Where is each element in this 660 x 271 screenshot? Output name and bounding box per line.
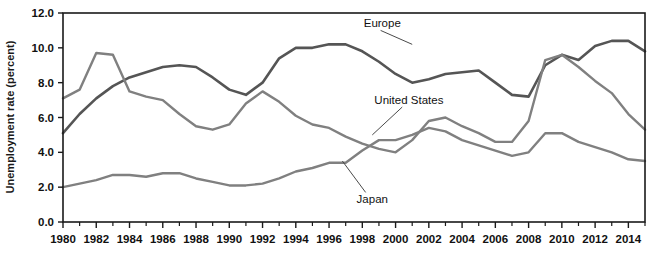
y-tick: 0.0 (38, 216, 63, 228)
x-tick: 2000 (383, 222, 409, 245)
x-tick: 1988 (183, 222, 209, 245)
series-label-japan: Japan (357, 193, 388, 205)
y-tick-label: 12.0 (32, 7, 54, 19)
x-tick: 2006 (483, 222, 509, 245)
x-tick: 2014 (616, 222, 642, 245)
plot-background (63, 13, 645, 222)
series-label-europe: Europe (364, 17, 401, 29)
y-axis-title-text: Unemployment rate (percent) (4, 40, 16, 193)
x-tick-label: 2014 (616, 233, 642, 245)
x-tick-label: 1994 (283, 233, 309, 245)
y-tick-label: 8.0 (38, 77, 54, 89)
y-tick-label: 2.0 (38, 181, 54, 193)
x-tick-label: 2008 (516, 233, 542, 245)
y-tick: 10.0 (32, 42, 63, 54)
x-tick: 2002 (416, 222, 442, 245)
x-tick: 1990 (216, 222, 242, 245)
x-tick-label: 1982 (83, 233, 109, 245)
x-tick-label: 2002 (416, 233, 442, 245)
x-tick: 2008 (516, 222, 542, 245)
y-axis-title: Unemployment rate (percent) (4, 40, 16, 193)
x-tick-label: 1992 (250, 233, 276, 245)
y-tick-label: 4.0 (38, 146, 54, 158)
y-tick-label: 6.0 (38, 112, 54, 124)
x-tick: 1994 (283, 222, 309, 245)
x-tick-label: 2000 (383, 233, 409, 245)
series-label-united-states: United States (374, 94, 443, 106)
chart-canvas: 0.02.04.06.08.010.012.019801982198419861… (0, 0, 660, 271)
y-tick: 12.0 (32, 7, 63, 19)
x-tick-label: 2004 (449, 233, 475, 245)
x-tick: 1980 (50, 222, 76, 245)
y-tick: 2.0 (38, 181, 63, 193)
x-tick: 1996 (316, 222, 342, 245)
x-tick: 1992 (250, 222, 276, 245)
x-tick-label: 1988 (183, 233, 209, 245)
x-tick: 2012 (582, 222, 608, 245)
x-tick-label: 1986 (150, 233, 176, 245)
x-tick-label: 1998 (350, 233, 376, 245)
x-tick-label: 1980 (50, 233, 76, 245)
x-tick: 1984 (117, 222, 143, 245)
x-tick-label: 2012 (582, 233, 608, 245)
x-tick-label: 2010 (549, 233, 575, 245)
x-tick-label: 2006 (483, 233, 509, 245)
y-tick-label: 0.0 (38, 216, 54, 228)
y-tick: 4.0 (38, 146, 63, 158)
unemployment-rate-chart: 0.02.04.06.08.010.012.019801982198419861… (0, 0, 660, 271)
x-tick-label: 1996 (316, 233, 342, 245)
x-tick: 1982 (83, 222, 109, 245)
y-tick-label: 10.0 (32, 42, 54, 54)
x-tick-label: 1990 (216, 233, 242, 245)
x-tick: 2010 (549, 222, 575, 245)
x-tick-label: 1984 (117, 233, 143, 245)
y-tick: 8.0 (38, 77, 63, 89)
y-tick: 6.0 (38, 112, 63, 124)
x-tick: 1986 (150, 222, 176, 245)
x-tick: 1998 (350, 222, 376, 245)
x-tick: 2004 (449, 222, 475, 245)
